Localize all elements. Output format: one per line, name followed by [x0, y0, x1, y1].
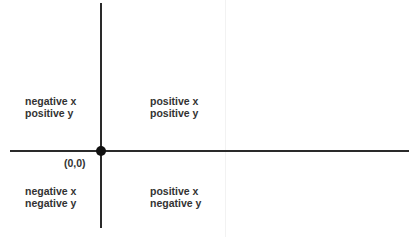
y-axis [100, 3, 102, 228]
x-axis [10, 150, 409, 152]
quadrant-line: positive x [150, 185, 201, 197]
quadrant-line: negative y [150, 197, 201, 209]
origin-label: (0,0) [64, 157, 86, 169]
quadrant-bottom-right: positive x negative y [150, 185, 201, 209]
quadrant-bottom-left: negative x negative y [25, 185, 76, 209]
quadrant-top-left: negative x positive y [25, 95, 76, 119]
faint-gridline [225, 0, 226, 237]
quadrant-line: negative x [25, 185, 76, 197]
quadrant-top-right: positive x positive y [150, 95, 198, 119]
quadrant-line: positive y [150, 107, 198, 119]
origin-point [96, 146, 106, 156]
quadrant-line: positive y [25, 107, 76, 119]
quadrant-line: negative y [25, 197, 76, 209]
quadrant-line: positive x [150, 95, 198, 107]
quadrant-line: negative x [25, 95, 76, 107]
